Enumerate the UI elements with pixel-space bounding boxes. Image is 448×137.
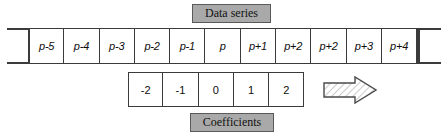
convolution-diagram: Data series p-5 p-4 p-3 p-2 p-1 p p+1 p+… bbox=[0, 0, 448, 137]
data-series-row: p-5 p-4 p-3 p-2 p-1 p p+1 p+2 p+2 p+3 p+… bbox=[7, 28, 441, 64]
series-cell: p-2 bbox=[135, 28, 170, 64]
series-cell: p-3 bbox=[100, 28, 135, 64]
series-cell: p-1 bbox=[170, 28, 205, 64]
coefficients-cell-group: -2 -1 0 1 2 bbox=[128, 72, 304, 107]
series-right-cap bbox=[417, 28, 420, 64]
series-cell: p+3 bbox=[347, 28, 382, 64]
series-cell: p+2 bbox=[311, 28, 346, 64]
coefficient-cell: 1 bbox=[234, 72, 269, 107]
series-cell: p+1 bbox=[241, 28, 276, 64]
coefficient-cell: -2 bbox=[128, 72, 163, 107]
coefficient-cell: -1 bbox=[163, 72, 198, 107]
series-cell: p-4 bbox=[64, 28, 99, 64]
data-series-banner: Data series bbox=[192, 4, 271, 23]
right-arrow-icon bbox=[323, 76, 377, 104]
series-cell: p+2 bbox=[276, 28, 311, 64]
series-cell: p+4 bbox=[382, 28, 417, 64]
coefficient-cell: 0 bbox=[199, 72, 234, 107]
coefficients-banner: Coefficients bbox=[190, 113, 274, 132]
series-cell: p bbox=[205, 28, 240, 64]
series-cell: p-5 bbox=[29, 28, 64, 64]
series-cell-group: p-5 p-4 p-3 p-2 p-1 p p+1 p+2 p+2 p+3 p+… bbox=[29, 28, 417, 64]
coefficient-cell: 2 bbox=[269, 72, 304, 107]
